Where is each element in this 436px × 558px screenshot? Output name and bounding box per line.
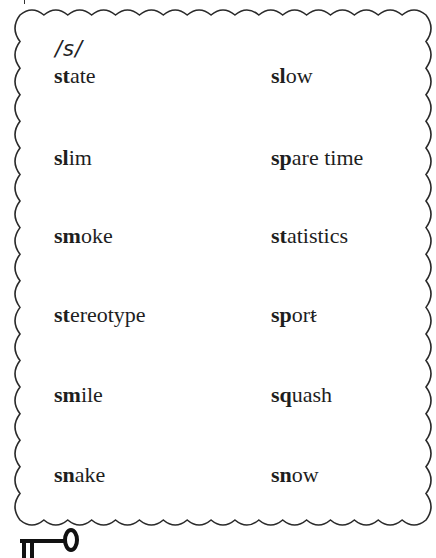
word-rest: ate [70, 63, 96, 88]
word-right-5: squash [271, 383, 332, 407]
word-left-5: smile [54, 383, 103, 407]
word-right-4: sport [271, 303, 316, 327]
word-rest: ow [292, 462, 319, 487]
word-left-2: slim [54, 146, 92, 170]
word-highlight: sn [271, 462, 292, 487]
word-right-6: snow [271, 463, 319, 487]
silent-letter: t [310, 303, 316, 327]
word-left-4: stereotype [54, 303, 146, 327]
word-left-3: smoke [54, 224, 113, 248]
word-rest: im [69, 145, 92, 170]
word-rest: uash [292, 382, 332, 407]
word-left-6: snake [54, 463, 105, 487]
word-rest: ake [75, 462, 106, 487]
word-highlight: sm [54, 382, 81, 407]
word-highlight: sl [271, 63, 286, 88]
word-highlight: sm [54, 223, 81, 248]
word-rest: ereotype [70, 302, 146, 327]
word-highlight: sp [271, 145, 292, 170]
word-rest: or [292, 302, 310, 327]
phoneme-label: /s/ [55, 37, 83, 61]
word-highlight: st [54, 302, 70, 327]
word-rest: atistics [287, 223, 348, 248]
word-highlight: sq [271, 382, 292, 407]
word-rest: ile [81, 382, 103, 407]
word-highlight: st [54, 63, 70, 88]
word-right-3: statistics [271, 224, 348, 248]
word-right-2: spare time [271, 146, 363, 170]
word-rest: ow [286, 63, 313, 88]
word-highlight: st [271, 223, 287, 248]
word-rest: oke [81, 223, 113, 248]
word-left-1: state [54, 64, 96, 88]
key-icon [18, 528, 82, 558]
word-highlight: sn [54, 462, 75, 487]
word-highlight: sl [54, 145, 69, 170]
word-highlight: sp [271, 302, 292, 327]
word-rest: are time [292, 145, 363, 170]
word-right-1: slow [271, 64, 313, 88]
